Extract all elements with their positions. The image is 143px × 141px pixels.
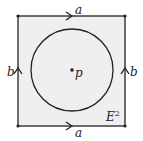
bottom-edge-label: a	[75, 126, 82, 140]
corner-dot	[16, 124, 19, 127]
top-edge-label: a	[75, 3, 82, 17]
center-point-label: p	[75, 66, 83, 80]
left-edge-label: b	[7, 65, 15, 79]
corner-dot	[123, 14, 126, 17]
right-edge-label: b	[130, 65, 138, 79]
corner-dot	[16, 14, 19, 17]
torus-square-diagram: a a b b p E2	[0, 0, 143, 141]
center-point	[70, 68, 74, 72]
corner-dot	[123, 124, 126, 127]
